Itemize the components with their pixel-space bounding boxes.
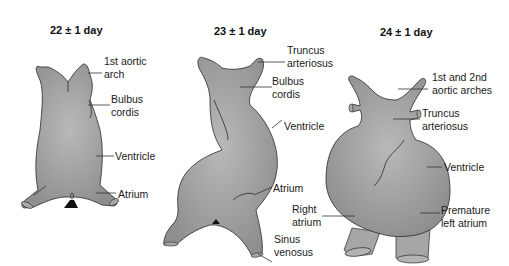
label-ventricle-day24: Ventricle	[444, 161, 484, 174]
label-ventricle-day23: Ventricle	[284, 120, 324, 133]
label-line: cordis	[272, 88, 304, 101]
label-line: cordis	[111, 106, 143, 119]
label-line: Ventricle	[444, 161, 484, 174]
label-line: Sinus	[274, 233, 313, 246]
label-line: Truncus	[287, 44, 333, 57]
label-line: 1st and 2nd	[432, 71, 492, 84]
label-line: Atrium	[273, 182, 303, 195]
heart-tube-day22	[21, 64, 120, 210]
label-1st-aortic-arch: 1st aortic arch	[104, 55, 147, 80]
label-right-atrium: Right atrium	[292, 203, 321, 228]
label-line: Atrium	[118, 188, 148, 201]
label-line: Truncus	[422, 107, 468, 120]
label-line: Right	[292, 203, 321, 216]
label-bulbus-cordis-day22: Bulbus cordis	[111, 93, 143, 118]
label-line: Bulbus	[272, 75, 304, 88]
label-line: arch	[104, 68, 147, 81]
panel-title-day24: 24 ± 1 day	[380, 26, 433, 38]
label-line: aortic arches	[432, 84, 492, 97]
label-truncus-arteriosus-day23: Truncus arteriosus	[287, 44, 333, 69]
label-sinus-venosus: Sinus venosus	[274, 233, 313, 258]
label-line: arteriosus	[287, 57, 333, 70]
heart-day24	[326, 76, 450, 263]
label-1st-2nd-aortic-arches: 1st and 2nd aortic arches	[432, 71, 492, 96]
label-premature-left-atrium: Premature left atrium	[441, 204, 490, 229]
label-line: arteriosus	[422, 120, 468, 133]
label-atrium-day22: Atrium	[118, 188, 148, 201]
label-ventricle-day22: Ventricle	[115, 150, 155, 163]
label-line: Premature	[441, 204, 490, 217]
label-line: Ventricle	[284, 120, 324, 133]
label-line: atrium	[292, 216, 321, 229]
label-atrium-day23: Atrium	[273, 182, 303, 195]
panel-title-day23: 23 ± 1 day	[214, 25, 267, 37]
label-line: left atrium	[441, 217, 490, 230]
label-truncus-arteriosus-day24: Truncus arteriosus	[422, 107, 468, 132]
panel-title-day22: 22 ± 1 day	[50, 24, 103, 36]
label-line: Ventricle	[115, 150, 155, 163]
label-line: 1st aortic	[104, 55, 147, 68]
heart-illustrations	[0, 0, 509, 266]
label-bulbus-cordis-day23: Bulbus cordis	[272, 75, 304, 100]
heart-development-diagram: 22 ± 1 day 23 ± 1 day 24 ± 1 day 1st aor…	[0, 0, 509, 266]
label-line: Bulbus	[111, 93, 143, 106]
label-line: venosus	[274, 246, 313, 259]
